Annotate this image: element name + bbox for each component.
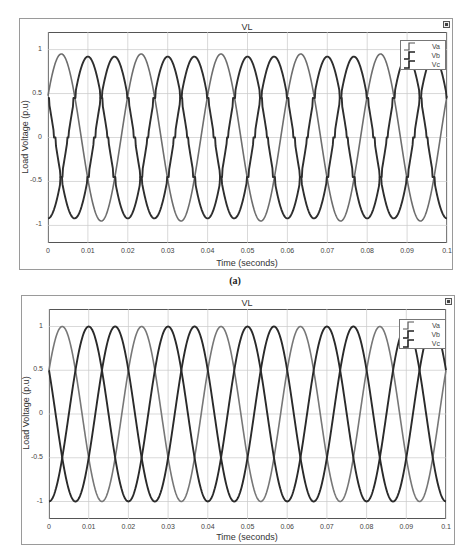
y-tick-label: -1 bbox=[22, 220, 42, 227]
x-tick-label: 0.02 bbox=[116, 523, 140, 530]
y-axis-label-a: Load Voltage (p.u) bbox=[20, 82, 30, 192]
x-tick-label: 0.06 bbox=[275, 523, 299, 530]
y-axis-label-b: Load Voltage (p.u) bbox=[21, 358, 31, 468]
legend-item-va: Va bbox=[400, 321, 445, 330]
step-line-icon bbox=[403, 339, 415, 348]
x-tick-label: 0.1 bbox=[434, 523, 458, 530]
plot-canvas bbox=[48, 32, 447, 243]
x-tick-label: 0.03 bbox=[156, 523, 180, 530]
x-tick-label: 0.09 bbox=[394, 523, 418, 530]
x-tick-label: 0.04 bbox=[196, 523, 220, 530]
legend-item-vc: Vc bbox=[401, 60, 445, 69]
x-tick-label: 0.09 bbox=[395, 247, 419, 254]
x-tick-label: 0.04 bbox=[196, 247, 220, 254]
x-tick-label: 0.08 bbox=[355, 523, 379, 530]
x-tick-label: 0.07 bbox=[315, 247, 339, 254]
plot-canvas bbox=[49, 309, 446, 519]
x-axis-label-a: Time (seconds) bbox=[48, 258, 446, 268]
x-axis-label-b: Time (seconds) bbox=[49, 532, 445, 542]
x-tick-label: 0.02 bbox=[116, 247, 140, 254]
step-line-icon bbox=[403, 330, 415, 339]
step-line-icon bbox=[404, 51, 416, 60]
x-tick-label: 0.1 bbox=[435, 247, 459, 254]
chart-title-a: VL bbox=[48, 22, 446, 32]
y-tick-label: -1 bbox=[23, 497, 43, 504]
step-line-icon bbox=[404, 42, 416, 51]
legend-a: Va Vb Vc bbox=[400, 40, 446, 70]
x-tick-label: 0.03 bbox=[156, 247, 180, 254]
legend-item-vb: Vb bbox=[400, 330, 445, 339]
x-tick-label: 0 bbox=[37, 523, 61, 530]
x-tick-label: 0.08 bbox=[355, 247, 379, 254]
x-tick-label: 0 bbox=[36, 247, 60, 254]
x-tick-label: 0.07 bbox=[315, 523, 339, 530]
legend-item-va: Va bbox=[401, 42, 445, 51]
plot-area-a bbox=[48, 32, 447, 243]
x-tick-label: 0.01 bbox=[76, 247, 100, 254]
legend-b: Va Vb Vc bbox=[399, 319, 446, 349]
plot-area-b bbox=[49, 309, 446, 519]
legend-item-vc: Vc bbox=[400, 339, 445, 348]
y-tick-label: 1 bbox=[22, 45, 42, 52]
x-tick-label: 0.05 bbox=[236, 247, 260, 254]
step-line-icon bbox=[403, 321, 415, 330]
x-tick-label: 0.06 bbox=[275, 247, 299, 254]
expand-icon[interactable] bbox=[445, 298, 452, 305]
x-tick-label: 0.05 bbox=[236, 523, 260, 530]
step-line-icon bbox=[404, 60, 416, 69]
x-tick-label: 0.01 bbox=[77, 523, 101, 530]
chart-title-b: VL bbox=[49, 298, 445, 308]
figure-caption-a: (a) bbox=[200, 275, 270, 286]
y-tick-label: 1 bbox=[23, 322, 43, 329]
legend-item-vb: Vb bbox=[401, 51, 445, 60]
